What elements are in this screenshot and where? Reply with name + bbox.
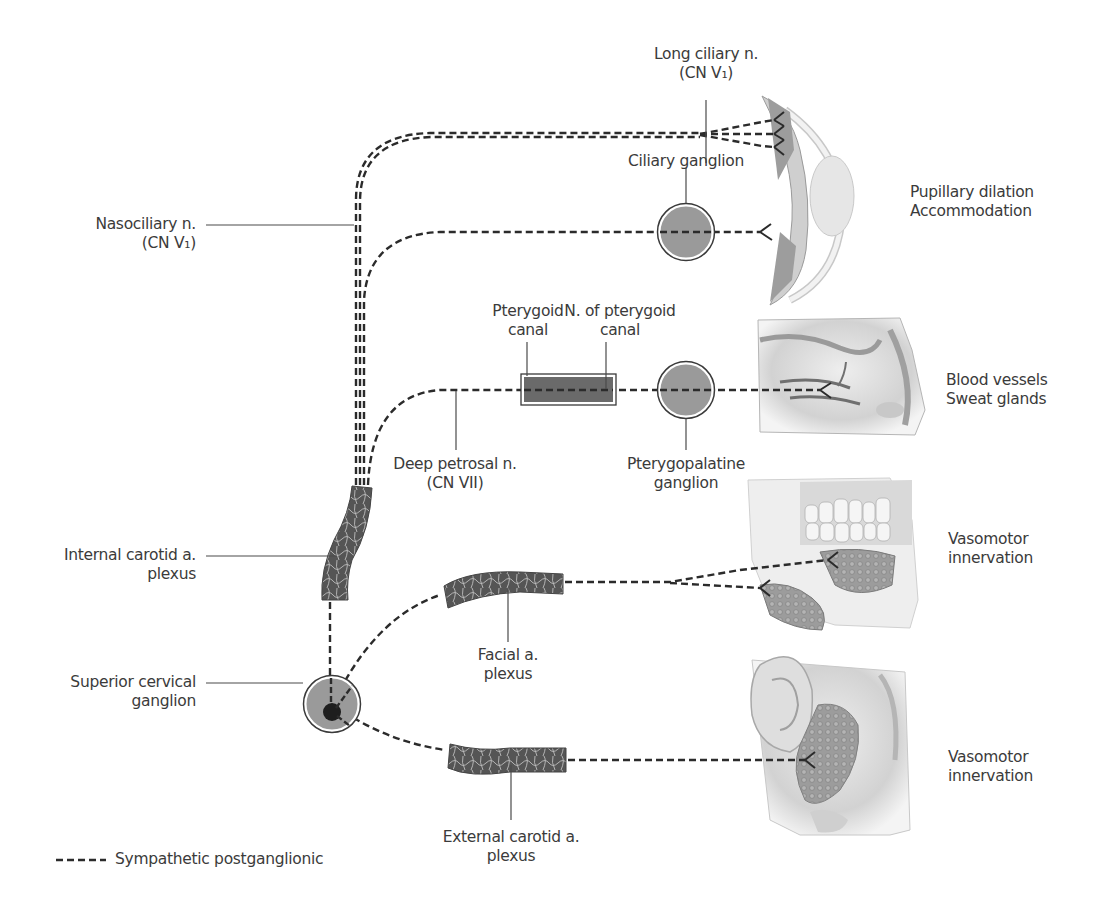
label-jaw-target: Vasomotor innervation <box>948 530 1033 568</box>
ciliary-ganglion <box>658 204 715 261</box>
superior-cervical-ganglion <box>304 676 361 733</box>
ear-parotid-illustration <box>751 657 910 835</box>
pterygoid-canal <box>521 374 616 405</box>
eye-illustration <box>762 96 854 305</box>
pterygopalatine-ganglion <box>658 362 715 419</box>
label-pterygopalatine-ganglion: Pterygopalatine ganglion <box>610 455 762 493</box>
facial-to-jaw-lower <box>670 583 760 588</box>
label-n-of-pterygoid-canal: N. of pterygoid canal <box>555 302 685 340</box>
label-pupil-target: Pupillary dilation Accommodation <box>910 183 1034 221</box>
label-nasal-target: Blood vessels Sweat glands <box>946 371 1048 409</box>
label-internal-carotid-plexus: Internal carotid a. plexus <box>20 546 196 584</box>
sc-to-facial-path <box>340 595 440 690</box>
sc-to-eca-path <box>344 712 445 750</box>
facial-artery-plexus <box>444 572 563 608</box>
jaw-illustration <box>748 478 918 630</box>
external-carotid-plexus <box>448 744 566 774</box>
ciliary-path <box>364 232 760 485</box>
label-superior-cervical-ganglion: Superior cervical ganglion <box>20 673 196 711</box>
label-ciliary-ganglion: Ciliary ganglion <box>600 152 772 171</box>
internal-carotid-plexus <box>322 486 372 600</box>
sympathetic-head-diagram <box>0 0 1111 912</box>
legend-label: Sympathetic postganglionic <box>115 850 323 869</box>
nasal-cavity-illustration <box>758 318 925 435</box>
label-nasociliary-nerve: Nasociliary n. (CN V₁) <box>40 215 196 253</box>
label-facial-artery-plexus: Facial a. plexus <box>460 646 556 684</box>
label-long-ciliary-nerve: Long ciliary n. (CN V₁) <box>646 45 766 83</box>
label-external-carotid-plexus: External carotid a. plexus <box>425 828 597 866</box>
label-deep-petrosal-nerve: Deep petrosal n. (CN VII) <box>385 455 525 493</box>
label-parotid-target: Vasomotor innervation <box>948 748 1033 786</box>
